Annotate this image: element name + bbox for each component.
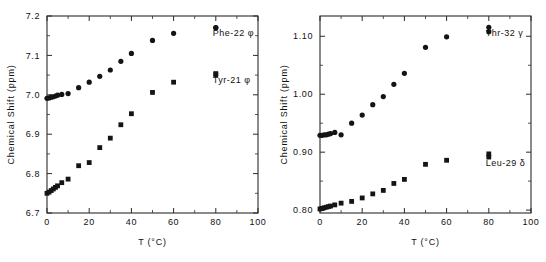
legend-label: Tyr-21 φ bbox=[213, 75, 251, 85]
legend-label: Thr-32 γ bbox=[486, 28, 524, 38]
data-point bbox=[66, 177, 71, 182]
data-point bbox=[332, 202, 337, 207]
data-point bbox=[55, 183, 60, 188]
legend-entry-1: Thr-32 γ bbox=[486, 25, 524, 39]
series-2-points bbox=[45, 72, 219, 195]
y-tick-label: 6.8 bbox=[26, 169, 40, 179]
legend-entry-2: Tyr-21 φ bbox=[213, 71, 251, 84]
legend-entry-1: Phe-22 φ bbox=[213, 25, 254, 39]
data-point bbox=[391, 82, 396, 87]
series-1-points bbox=[44, 25, 218, 101]
y-tick-label: 0.90 bbox=[293, 147, 313, 157]
data-point bbox=[118, 59, 123, 64]
legend-label: Phe-22 φ bbox=[213, 28, 254, 38]
data-point bbox=[360, 112, 365, 117]
data-point bbox=[59, 92, 64, 97]
y-tick-label: 7.2 bbox=[26, 11, 40, 21]
x-axis-title: T (°C) bbox=[138, 237, 167, 247]
nmr-chemical-shift-figure: 0204060801006.76.86.97.07.17.2T (°C)Chem… bbox=[0, 0, 546, 262]
x-tick-label: 0 bbox=[317, 217, 323, 227]
x-axis-title: T (°C) bbox=[411, 237, 440, 247]
data-point bbox=[108, 136, 113, 141]
x-tick-label: 100 bbox=[523, 217, 540, 227]
data-point bbox=[370, 191, 375, 196]
x-tick-label: 20 bbox=[357, 217, 368, 227]
scatter-plot-left: 0204060801006.76.86.97.07.17.2T (°C)Chem… bbox=[0, 0, 273, 262]
chart-panel-left: 0204060801006.76.86.97.07.17.2T (°C)Chem… bbox=[0, 0, 273, 262]
data-point bbox=[370, 102, 375, 107]
data-point bbox=[118, 122, 123, 127]
scatter-plot-right: 0204060801000.800.901.001.10T (°C)Chemic… bbox=[273, 0, 546, 262]
data-point bbox=[339, 132, 344, 137]
chart-panel-right: 0204060801000.800.901.001.10T (°C)Chemic… bbox=[273, 0, 546, 262]
x-tick-label: 40 bbox=[399, 217, 410, 227]
data-point bbox=[328, 204, 333, 209]
data-point bbox=[97, 145, 102, 150]
data-point bbox=[423, 162, 428, 167]
y-tick-label: 6.7 bbox=[26, 208, 40, 218]
x-tick-label: 20 bbox=[84, 217, 95, 227]
data-point bbox=[360, 196, 365, 201]
series-2-points bbox=[318, 152, 492, 212]
data-point bbox=[150, 90, 155, 95]
data-point bbox=[87, 160, 92, 165]
data-point bbox=[59, 180, 64, 185]
data-point bbox=[150, 38, 155, 43]
data-point bbox=[129, 51, 134, 56]
data-point bbox=[66, 91, 71, 96]
data-point bbox=[381, 188, 386, 193]
series-1-points bbox=[317, 29, 491, 138]
y-tick-label: 7.1 bbox=[26, 51, 40, 61]
y-tick-label: 6.9 bbox=[26, 129, 40, 139]
data-point bbox=[129, 111, 134, 116]
data-point bbox=[108, 67, 113, 72]
y-tick-label: 1.00 bbox=[293, 89, 313, 99]
x-tick-label: 0 bbox=[44, 217, 50, 227]
x-tick-label: 60 bbox=[441, 217, 452, 227]
plot-frame bbox=[47, 16, 258, 213]
data-point bbox=[349, 199, 354, 204]
data-point bbox=[349, 121, 354, 126]
data-point bbox=[87, 80, 92, 85]
y-tick-label: 7.0 bbox=[26, 90, 40, 100]
data-point bbox=[402, 177, 407, 182]
data-point bbox=[97, 74, 102, 79]
data-point bbox=[339, 201, 344, 206]
data-point bbox=[76, 163, 81, 168]
x-tick-label: 80 bbox=[210, 217, 221, 227]
legend-entry-2: Leu-29 δ bbox=[486, 155, 526, 168]
data-point bbox=[402, 71, 407, 76]
y-tick-label: 0.80 bbox=[293, 205, 313, 215]
legend-label: Leu-29 δ bbox=[486, 158, 526, 168]
y-tick-label: 1.10 bbox=[293, 31, 313, 41]
data-point bbox=[444, 158, 449, 163]
y-axis-title: Chemical Shift (ppm) bbox=[6, 64, 16, 164]
data-point bbox=[332, 130, 337, 135]
x-tick-label: 100 bbox=[250, 217, 267, 227]
data-point bbox=[171, 31, 176, 36]
x-tick-label: 80 bbox=[483, 217, 494, 227]
x-tick-label: 60 bbox=[168, 217, 179, 227]
data-point bbox=[444, 34, 449, 39]
y-axis-title: Chemical Shift (ppm) bbox=[279, 64, 289, 164]
data-point bbox=[76, 85, 81, 90]
data-point bbox=[391, 181, 396, 186]
x-tick-label: 40 bbox=[126, 217, 137, 227]
data-point bbox=[423, 45, 428, 50]
data-point bbox=[171, 80, 176, 85]
data-point bbox=[381, 94, 386, 99]
